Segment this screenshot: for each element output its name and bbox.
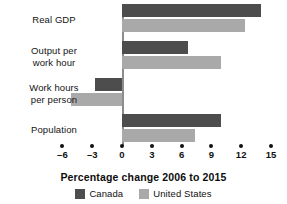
category-label-real-gdp: Real GDP — [0, 14, 108, 26]
x-axis-tick: 3 — [139, 144, 165, 160]
category-label-output-per-work-hour: Output per work hour — [0, 45, 108, 68]
bar-chart: Real GDP Output per work hour Work hours… — [0, 0, 287, 204]
bar-canada-population — [122, 114, 221, 127]
tick-label: –3 — [79, 150, 105, 160]
bar-canada-output-per-work-hour — [122, 41, 188, 54]
bar-united-states-real-gdp — [122, 19, 245, 32]
x-axis-tick: 12 — [228, 144, 254, 160]
category-label-line: per person — [31, 94, 77, 105]
tick-dot-icon — [269, 144, 273, 148]
x-axis-tick: 6 — [169, 144, 195, 160]
legend-item-canada: Canada — [75, 188, 123, 199]
category-label-line: Population — [31, 124, 77, 135]
tick-dot-icon — [90, 144, 94, 148]
plot-area: Real GDP Output per work hour Work hours… — [0, 0, 287, 148]
bar-united-states-population — [122, 129, 195, 142]
bar-canada-real-gdp — [122, 4, 261, 17]
tick-dot-icon — [150, 144, 154, 148]
bar-united-states-output-per-work-hour — [122, 56, 221, 69]
tick-label: 6 — [169, 150, 195, 160]
tick-label: 15 — [258, 150, 284, 160]
category-label-line: Output per — [31, 45, 77, 56]
chart-legend: Canada United States — [0, 188, 287, 199]
tick-dot-icon — [239, 144, 243, 148]
x-axis-tick: 0 — [109, 144, 135, 160]
category-label-line: work hour — [33, 57, 76, 68]
tick-label: 0 — [109, 150, 135, 160]
x-axis-tick: 15 — [258, 144, 284, 160]
legend-swatch-canada — [75, 189, 85, 199]
x-axis-tick: 9 — [198, 144, 224, 160]
category-label-work-hours-per-person: Work hours per person — [0, 82, 108, 105]
legend-label-canada: Canada — [89, 188, 123, 199]
category-label-line: Real GDP — [32, 14, 76, 25]
tick-label: 9 — [198, 150, 224, 160]
tick-label: –6 — [49, 150, 75, 160]
x-axis-tick: –6 — [49, 144, 75, 160]
legend-label-united-states: United States — [153, 188, 211, 199]
legend-swatch-united-states — [139, 189, 149, 199]
legend-item-united-states: United States — [139, 188, 211, 199]
tick-dot-icon — [180, 144, 184, 148]
x-axis-tick: –3 — [79, 144, 105, 160]
category-label-line: Work hours — [29, 82, 78, 93]
tick-label: 12 — [228, 150, 254, 160]
category-label-population: Population — [0, 124, 108, 136]
tick-dot-icon — [120, 144, 124, 148]
x-axis-ticks: –6–303691215 — [0, 144, 287, 170]
tick-dot-icon — [60, 144, 64, 148]
tick-dot-icon — [209, 144, 213, 148]
tick-label: 3 — [139, 150, 165, 160]
x-axis-title: Percentage change 2006 to 2015 — [0, 171, 287, 183]
